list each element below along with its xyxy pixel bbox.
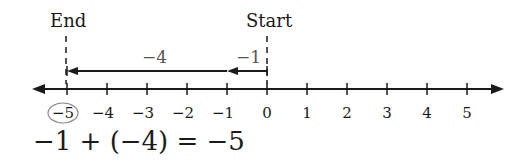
right-arrow-icon — [491, 84, 504, 94]
number-line-axis — [32, 83, 504, 95]
tick-label: 2 — [342, 104, 352, 122]
tick-label: −4 — [92, 104, 114, 122]
arrow-label-minus-1: −1 — [236, 47, 261, 67]
end-label: End — [50, 10, 86, 31]
start-label: Start — [246, 10, 293, 31]
arrow-minus-1 — [227, 66, 267, 76]
tick-label: −3 — [132, 104, 154, 122]
tick-label: −5 — [52, 104, 74, 122]
arrow-label-minus-4: −4 — [142, 47, 167, 67]
tick-label: 0 — [262, 104, 272, 122]
left-arrow-icon — [32, 84, 45, 94]
arrow-minus-4 — [67, 66, 227, 76]
arrowhead-icon — [227, 67, 238, 75]
tick-label: 4 — [422, 104, 432, 122]
tick-label: −1 — [212, 104, 234, 122]
tick-label: 1 — [302, 104, 312, 122]
tick-label: −2 — [172, 104, 194, 122]
tick-label: 3 — [382, 104, 392, 122]
tick-labels: −5 −4 −3 −2 −1 0 1 2 3 4 5 — [52, 104, 472, 122]
arrowhead-icon — [67, 67, 78, 75]
equation: −1 + (−4) = −5 — [33, 126, 245, 156]
tick-label: 5 — [462, 104, 472, 122]
number-line-diagram: End Start −4 −1 — [0, 0, 524, 166]
